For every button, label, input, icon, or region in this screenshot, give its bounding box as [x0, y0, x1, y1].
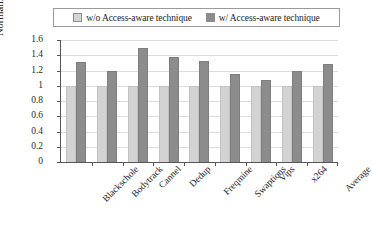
bar-group — [61, 40, 92, 162]
bar-with-technique — [261, 80, 271, 162]
y-tick-label: 1.2 — [3, 66, 43, 76]
bar-without-technique — [97, 86, 107, 162]
bar-without-technique — [189, 86, 199, 162]
bar-with-technique — [323, 64, 333, 162]
legend-label-without: w/o Access-aware technique — [86, 13, 192, 23]
legend-swatch-light-icon — [73, 13, 82, 22]
y-tick-mark — [57, 162, 61, 163]
bar-group — [276, 40, 307, 162]
y-tick-label: 0.2 — [3, 142, 43, 152]
y-tick-label: 1.4 — [3, 50, 43, 60]
bar-group — [215, 40, 246, 162]
bar-with-technique — [230, 74, 240, 162]
bar-without-technique — [159, 86, 169, 162]
bar-group — [307, 40, 338, 162]
bar-group — [92, 40, 123, 162]
y-axis-title: Normalized lifetime — [0, 0, 5, 36]
y-tick-label: 0.8 — [3, 96, 43, 106]
y-tick-label: 0 — [3, 157, 43, 167]
chart-legend: w/o Access-aware technique w/ Access-awa… — [53, 8, 340, 27]
y-tick-label: 1.6 — [3, 35, 43, 45]
bar-without-technique — [66, 86, 76, 162]
x-axis-label: Average — [343, 164, 372, 193]
legend-entry-with: w/ Access-aware technique — [206, 13, 320, 23]
bar-with-technique — [107, 71, 117, 163]
legend-swatch-dark-icon — [206, 13, 215, 22]
bar-group — [246, 40, 277, 162]
x-axis-labels: BlackscholeBodytrackCannelDedupFreqmineS… — [60, 164, 338, 226]
legend-entry-without: w/o Access-aware technique — [73, 13, 192, 23]
bar-with-technique — [199, 61, 209, 162]
bar-with-technique — [169, 57, 179, 162]
x-axis-label: Freqmine — [221, 164, 254, 197]
bar-group — [153, 40, 184, 162]
y-tick-label: 1 — [3, 81, 43, 91]
bar-without-technique — [220, 86, 230, 162]
bar-without-technique — [313, 86, 323, 162]
plot-area: 00.20.40.60.811.21.41.6 — [60, 40, 338, 163]
y-tick-label: 0.4 — [3, 127, 43, 137]
bar-without-technique — [128, 86, 138, 162]
legend-label-with: w/ Access-aware technique — [219, 13, 320, 23]
bar-group — [184, 40, 215, 162]
bar-without-technique — [282, 86, 292, 162]
bar-group — [123, 40, 154, 162]
bar-without-technique — [251, 86, 261, 162]
y-tick-label: 0.6 — [3, 111, 43, 121]
x-axis-label: x264 — [308, 164, 329, 185]
bar-with-technique — [76, 62, 86, 162]
bar-with-technique — [292, 71, 302, 163]
x-axis-label: Dedup — [187, 164, 212, 189]
bar-with-technique — [138, 48, 148, 162]
